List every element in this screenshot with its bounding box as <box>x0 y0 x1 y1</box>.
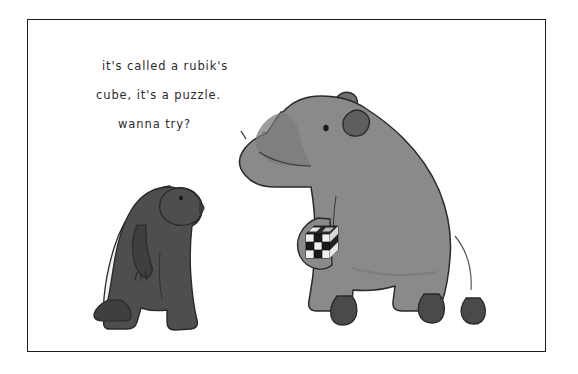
honey-badger-eye <box>179 196 183 200</box>
caption-line-1: it's called a rubik's <box>96 52 286 81</box>
caption-text-block: it's called a rubik's cube, it's a puzzl… <box>96 52 286 139</box>
capybara-rear-foot-second <box>461 298 485 324</box>
rubiks-cube <box>306 226 338 258</box>
cartoon-illustration: it's called a rubik's cube, it's a puzzl… <box>0 0 578 374</box>
capybara-ear-front <box>343 110 370 136</box>
honey-badger-hind-foot <box>94 300 131 321</box>
caption-line-2: cube, it's a puzzle. <box>96 81 286 110</box>
caption-line-3: wanna try? <box>96 110 286 139</box>
honey-badger-nose <box>199 203 204 212</box>
scene-artwork <box>0 0 578 374</box>
capybara-rear-foot <box>418 294 444 323</box>
honey-badger <box>94 186 204 330</box>
capybara-haunch-line <box>455 236 471 290</box>
capybara-eye <box>323 125 328 131</box>
capybara-front-foot <box>331 296 357 325</box>
